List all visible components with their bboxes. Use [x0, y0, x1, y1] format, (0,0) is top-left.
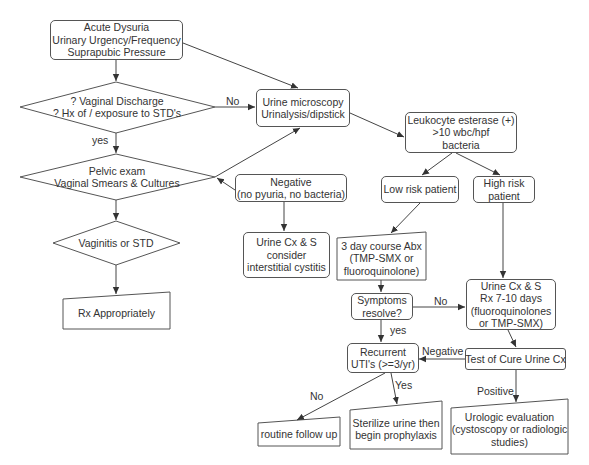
high-risk-line-2: patient — [488, 190, 520, 203]
leukocyte-box: Leukocyte esterase (+) >10 wbc/hpf bacte… — [405, 112, 517, 153]
high-risk-line-1: High risk — [484, 177, 525, 190]
three-day-line-2: (TMP-SMX or — [349, 252, 413, 265]
edge-label-no-symptoms: No — [434, 295, 447, 307]
negative-line-1: Negative — [270, 176, 311, 189]
low-risk-line-1: Low risk patient — [384, 183, 457, 196]
pelvic-exam-line-1: Pelvic exam — [89, 165, 146, 178]
rx-appropriately-text: Rx Appropriately — [63, 301, 170, 325]
vaginitis-text: Vaginitis or STD — [60, 236, 172, 250]
urologic-line-3: studies) — [491, 436, 528, 449]
recurrent-box: Recurrent UTI's (>=3/yr) — [347, 343, 419, 373]
edge-label-yes-symptoms: yes — [390, 324, 406, 336]
leukocyte-line-1: Leukocyte esterase (+) — [407, 114, 514, 127]
std-question-text: ? Vaginal Discharge ? Hx of / exposure t… — [40, 92, 194, 122]
sterilize-line-2: begin prophylaxis — [355, 429, 437, 442]
symptoms-line-1: Symptoms — [357, 294, 407, 307]
leukocyte-line-3: bacteria — [442, 139, 479, 152]
urine-cx-interstitial-box: Urine Cx & S consider interstitial cysti… — [243, 232, 330, 278]
three-day-line-3: fluoroquinolone) — [344, 265, 419, 278]
std-question-line-1: ? Vaginal Discharge — [70, 95, 163, 108]
edge-label-yes-std: yes — [92, 134, 108, 146]
start-line-3: Suprapubic Pressure — [67, 46, 165, 59]
recurrent-line-1: Recurrent — [360, 346, 406, 359]
sterilize-text: Sterilize urine then begin prophylaxis — [350, 410, 442, 448]
urine-cx-rx-line-1: Urine Cx & S — [481, 280, 542, 293]
urine-cx-ic-line-1: Urine Cx & S — [256, 236, 317, 249]
urologic-line-1: Urologic evaluation — [465, 411, 554, 424]
three-day-line-1: 3 day course Abx — [341, 240, 422, 253]
recurrent-line-2: UTI's (>=3/yr) — [351, 358, 415, 371]
urine-cx-rx-box: Urine Cx & S Rx 7-10 days (fluoroquinolo… — [466, 279, 556, 330]
urine-microscopy-line-2: Urinalysis/dipstick — [261, 108, 344, 121]
urologic-text: Urologic evaluation (cystoscopy or radio… — [451, 406, 568, 453]
test-of-cure-line-1: Test of Cure Urine Cx — [465, 353, 565, 366]
urine-cx-rx-line-3: (fluoroquinolones — [471, 305, 552, 318]
three-day-text: 3 day course Abx (TMP-SMX or fluoroquino… — [337, 238, 426, 279]
symptoms-resolve-box: Symptoms resolve? — [351, 293, 413, 320]
urine-cx-rx-line-4: or TMP-SMX) — [479, 317, 543, 330]
std-question-line-2: ? Hx of / exposure to STD's — [53, 107, 181, 120]
vaginitis-line-1: Vaginitis or STD — [78, 237, 153, 250]
urine-microscopy-line-1: Urine microscopy — [262, 96, 343, 109]
edge-label-positive-cure: Positive — [477, 385, 514, 397]
pelvic-exam-text: Pelvic exam Vaginal Smears & Cultures — [40, 162, 194, 192]
negative-line-2: (no pyuria, no bacteria) — [237, 188, 345, 201]
routine-line-1: routine follow up — [261, 428, 337, 441]
urine-cx-ic-line-3: interstitial cystitis — [247, 261, 326, 274]
low-risk-box: Low risk patient — [381, 176, 459, 203]
symptoms-line-2: resolve? — [362, 307, 402, 320]
high-risk-box: High risk patient — [473, 176, 535, 203]
urologic-line-2: (cystoscopy or radiologic — [452, 423, 568, 436]
edge-label-yes-recurrent: Yes — [395, 379, 412, 391]
routine-text: routine follow up — [258, 423, 340, 445]
sterilize-line-1: Sterilize urine then — [353, 417, 440, 430]
urine-cx-ic-line-2: consider — [267, 249, 307, 262]
edge-label-no-recurrent: No — [310, 390, 323, 402]
edge-label-no-std: No — [226, 95, 239, 107]
test-of-cure-box: Test of Cure Urine Cx — [465, 348, 566, 370]
negative-box: Negative (no pyuria, no bacteria) — [235, 174, 347, 202]
pelvic-exam-line-2: Vaginal Smears & Cultures — [54, 177, 179, 190]
urine-microscopy-box: Urine microscopy Urinalysis/dipstick — [256, 89, 350, 127]
start-line-2: Urinary Urgency/Frequency — [52, 34, 180, 47]
start-box: Acute Dysuria Urinary Urgency/Frequency … — [50, 20, 183, 60]
edge-label-negative-cure: Negative — [422, 345, 463, 357]
leukocyte-line-2: >10 wbc/hpf — [433, 126, 490, 139]
start-line-1: Acute Dysuria — [84, 21, 149, 34]
rx-appropriately-line-1: Rx Appropriately — [78, 307, 155, 320]
urine-cx-rx-line-2: Rx 7-10 days — [480, 292, 542, 305]
